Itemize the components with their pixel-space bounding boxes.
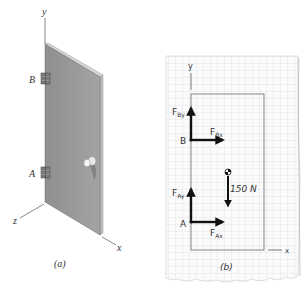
point-a-label: A bbox=[180, 219, 187, 229]
door-side-edge bbox=[100, 75, 103, 235]
hinge-a bbox=[41, 167, 50, 178]
panel-a-caption: (a) bbox=[54, 258, 66, 270]
fbd-x-axis-label: x bbox=[285, 247, 289, 255]
grid-lines bbox=[166, 56, 300, 282]
x-axis-label: x bbox=[116, 242, 122, 253]
point-b-label: B bbox=[180, 136, 186, 146]
centroid-icon bbox=[225, 169, 231, 175]
hinge-b-label: B bbox=[29, 74, 35, 85]
figure: y B A z bbox=[0, 0, 307, 292]
hinge-b bbox=[41, 73, 50, 84]
y-axis-label: y bbox=[41, 6, 47, 17]
weight-label: 150 N bbox=[230, 184, 257, 194]
panel-b: y x B FBy FBx A FAy FAx 150 N (b) bbox=[166, 56, 300, 282]
door-face bbox=[45, 44, 100, 235]
panel-b-caption: (b) bbox=[220, 262, 233, 272]
x-axis-line bbox=[102, 237, 116, 245]
panel-a: y B A z bbox=[12, 6, 122, 270]
z-axis-line bbox=[20, 204, 44, 218]
hinge-a-label: A bbox=[28, 168, 36, 179]
z-axis-label: z bbox=[12, 215, 17, 226]
fbd-y-axis-label: y bbox=[188, 62, 193, 71]
